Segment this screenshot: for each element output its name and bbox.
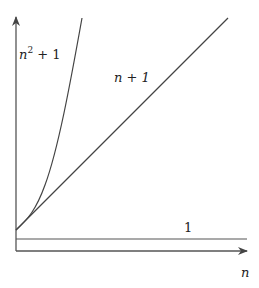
growth-diagram: n2 + 1 n + 1 1 n (0, 0, 259, 288)
constant-label: 1 (184, 220, 192, 235)
quadratic-label: n2 + 1 (19, 45, 61, 62)
linear-label: n + 1 (114, 70, 150, 85)
x-axis-label: n (241, 265, 249, 280)
